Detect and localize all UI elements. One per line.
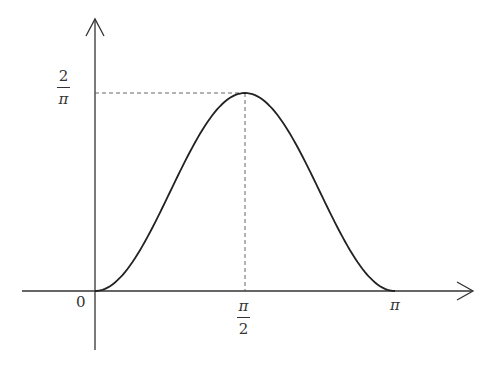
y-tick-2-over-pi: 2 π <box>57 68 70 107</box>
y-peak-numerator: 2 <box>59 68 69 84</box>
fraction-bar <box>57 87 70 88</box>
fraction-bar <box>237 317 250 318</box>
origin-label: 0 <box>76 293 86 311</box>
x-tick-pi: π <box>390 296 400 314</box>
x-tick-pi-over-2: π 2 <box>237 298 250 337</box>
x-mid-numerator: π <box>239 298 249 314</box>
y-peak-denominator: π <box>59 91 69 107</box>
x-mid-denominator: 2 <box>239 321 249 337</box>
